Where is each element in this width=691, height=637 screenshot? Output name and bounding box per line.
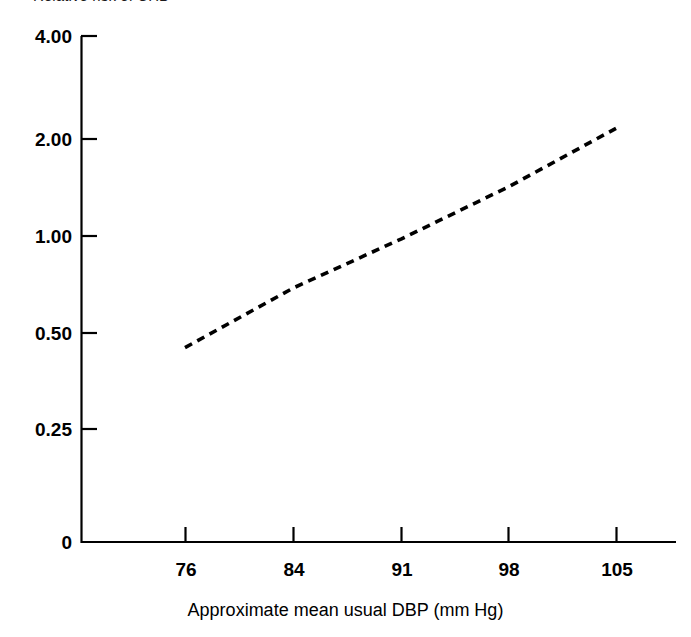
risk-trend-line <box>185 128 616 347</box>
y-tick-label-0-50: 0.50 <box>6 324 72 343</box>
y-tick-label-0: 0 <box>6 533 72 552</box>
y-tick-label-2-00: 2.00 <box>6 130 72 149</box>
x-tick-label-98: 98 <box>479 560 539 579</box>
x-tick-label-84: 84 <box>264 560 324 579</box>
x-tick-label-91: 91 <box>372 560 432 579</box>
x-axis-ticks <box>186 527 617 542</box>
y-tick-label-0-25: 0.25 <box>6 420 72 439</box>
plot-area <box>0 0 691 637</box>
x-axis-title: Approximate mean usual DBP (mm Hg) <box>0 600 691 621</box>
x-tick-label-105: 105 <box>587 560 647 579</box>
y-tick-label-4-00: 4.00 <box>6 27 72 46</box>
y-axis-ticks <box>81 36 97 429</box>
chart-figure: Relative risk of CHD 4.00 2.00 1.00 0.50… <box>0 0 691 637</box>
x-tick-label-76: 76 <box>156 560 216 579</box>
y-tick-label-1-00: 1.00 <box>6 227 72 246</box>
